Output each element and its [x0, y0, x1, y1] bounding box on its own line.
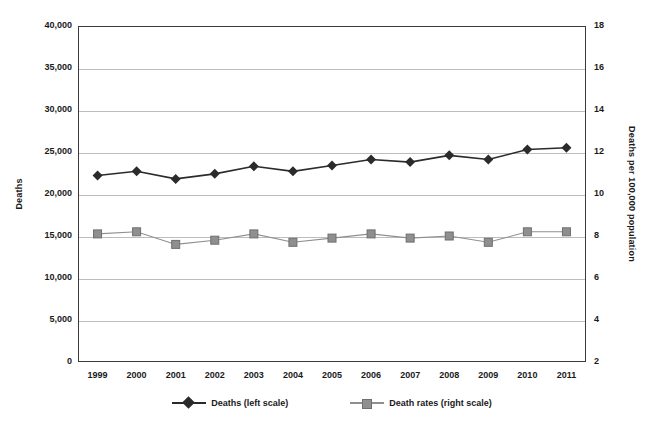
- y-axis-right-tick-label: 12: [594, 146, 604, 156]
- data-point-square: [289, 238, 297, 246]
- y-axis-right-tick-label: 2: [594, 356, 599, 366]
- data-point-diamond: [210, 169, 220, 179]
- x-axis-tick-label: 2007: [391, 370, 430, 380]
- legend-label: Deaths (left scale): [211, 398, 288, 408]
- data-point-diamond: [288, 166, 298, 176]
- data-point-diamond: [366, 155, 376, 165]
- data-point-square: [406, 234, 414, 242]
- y-axis-left-tick-label: 35,000: [16, 62, 72, 72]
- data-point-square: [211, 236, 219, 244]
- data-point-square: [523, 228, 531, 236]
- data-point-diamond: [93, 171, 103, 181]
- x-axis-tick-label: 2002: [195, 370, 234, 380]
- chart-legend: Deaths (left scale)Death rates (right sc…: [78, 398, 586, 408]
- data-point-square: [133, 228, 141, 236]
- data-point-square: [367, 230, 375, 238]
- x-axis-tick-label: 2004: [273, 370, 312, 380]
- data-point-diamond: [405, 157, 415, 167]
- data-point-diamond: [327, 160, 337, 170]
- y-axis-left-tick-label: 15,000: [16, 230, 72, 240]
- y-axis-right-tick-label: 4: [594, 314, 599, 324]
- data-point-square: [562, 228, 570, 236]
- data-point-square: [484, 238, 492, 246]
- legend-item[interactable]: Deaths (left scale): [172, 398, 288, 408]
- x-axis-tick-label: 1999: [78, 370, 117, 380]
- y-axis-right-tick-label: 8: [594, 230, 599, 240]
- y-axis-left-tick-label: 10,000: [16, 272, 72, 282]
- data-point-diamond: [522, 144, 532, 154]
- y-axis-left-tick-label: 0: [16, 356, 72, 366]
- data-point-diamond: [249, 161, 259, 171]
- data-point-square: [94, 230, 102, 238]
- y-axis-right-tick-label: 10: [594, 188, 604, 198]
- legend-item[interactable]: Death rates (right scale): [350, 398, 492, 408]
- data-point-diamond: [171, 174, 181, 184]
- y-axis-right-tick-label: 14: [594, 104, 604, 114]
- data-point-square: [328, 234, 336, 242]
- y-axis-left-tick-label: 30,000: [16, 104, 72, 114]
- data-point-square: [445, 232, 453, 240]
- legend-label: Death rates (right scale): [389, 398, 492, 408]
- x-axis-tick-label: 2006: [352, 370, 391, 380]
- x-axis-tick-label: 2003: [234, 370, 273, 380]
- x-axis-tick-label: 2011: [547, 370, 586, 380]
- data-point-diamond: [561, 143, 571, 153]
- x-axis-tick-label: 2008: [430, 370, 469, 380]
- x-axis-tick-label: 2000: [117, 370, 156, 380]
- series-layer: [0, 0, 655, 428]
- data-point-diamond: [444, 150, 454, 160]
- y-axis-right-tick-label: 16: [594, 62, 604, 72]
- y-axis-left-tick-label: 25,000: [16, 146, 72, 156]
- y-axis-left-tick-label: 20,000: [16, 188, 72, 198]
- data-point-diamond: [132, 166, 142, 176]
- data-point-square: [250, 230, 258, 238]
- legend-square-icon: [350, 398, 384, 408]
- y-axis-left-tick-label: 5,000: [16, 314, 72, 324]
- y-axis-right-tick-label: 6: [594, 272, 599, 282]
- x-axis-tick-label: 2005: [312, 370, 351, 380]
- y-axis-right-tick-label: 18: [594, 20, 604, 30]
- data-point-diamond: [483, 155, 493, 165]
- chart-container: Deaths Deaths per 100,000 population 05,…: [0, 0, 655, 428]
- data-point-square: [172, 240, 180, 248]
- x-axis-tick-label: 2010: [508, 370, 547, 380]
- y-axis-left-tick-label: 40,000: [16, 20, 72, 30]
- legend-diamond-icon: [172, 398, 206, 408]
- x-axis-tick-label: 2009: [469, 370, 508, 380]
- x-axis-tick-label: 2001: [156, 370, 195, 380]
